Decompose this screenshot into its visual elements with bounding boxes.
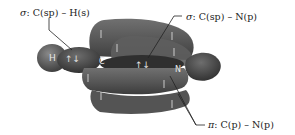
pi-symbol: π (208, 119, 214, 130)
label-sigma-cn: σ: C(sp) – N(p) (186, 12, 257, 22)
label-pi-cn: π: C(p) – N(p) (208, 120, 274, 130)
atom-h: H (49, 53, 56, 63)
label-pi-cn-text: C(p) – N(p) (220, 119, 273, 130)
sigma-symbol: σ (20, 7, 27, 18)
label-sigma-cn-text: C(sp) – N(p) (199, 11, 257, 22)
sigma-ch-electrons: ↑↓ (65, 54, 80, 64)
atom-c: C (99, 57, 105, 66)
sigma-cn-electrons: ↑↓ (135, 60, 150, 70)
label-sigma-ch: σ: C(sp) – H(s) (20, 8, 90, 18)
sigma-symbol: σ (186, 11, 193, 22)
atom-n: N (175, 65, 181, 74)
label-sigma-ch-text: C(sp) – H(s) (33, 7, 90, 18)
n-sp-orbital (185, 53, 221, 81)
